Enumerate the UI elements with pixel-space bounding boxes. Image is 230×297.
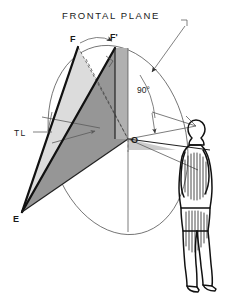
point-o-label: O xyxy=(131,135,138,145)
figure-hips xyxy=(181,208,210,231)
angle-arc-90 xyxy=(140,75,155,118)
figure-torso-hatching xyxy=(185,153,206,200)
frontal-plane-label: FRONTAL PLANE xyxy=(62,10,160,21)
figure-head xyxy=(188,120,205,145)
frontal-plane-leader-elbow xyxy=(181,20,187,26)
observer-figure xyxy=(179,120,216,292)
point-f-prime-label: F' xyxy=(110,32,118,42)
frontal-strip xyxy=(115,48,128,139)
figure-leg-near xyxy=(197,231,212,286)
point-f-label: F xyxy=(70,34,76,44)
frontal-plane-leader-group xyxy=(152,20,187,72)
angle-indicator-group xyxy=(140,75,155,133)
frontal-plane-diagram: FRONTAL PLANE F F' O E TL 90° xyxy=(0,0,230,297)
frontal-plane-leader-line xyxy=(152,26,185,72)
rotation-arrow-group xyxy=(80,37,112,43)
shaded-surfaces xyxy=(22,47,176,212)
rotation-arrow-f-to-fprime xyxy=(80,37,112,43)
true-length-label: TL xyxy=(14,128,26,138)
angle-90-label: 90° xyxy=(137,85,150,95)
diagram-canvas: FRONTAL PLANE F F' O E TL 90° xyxy=(0,0,230,297)
point-e-label: E xyxy=(13,214,19,224)
